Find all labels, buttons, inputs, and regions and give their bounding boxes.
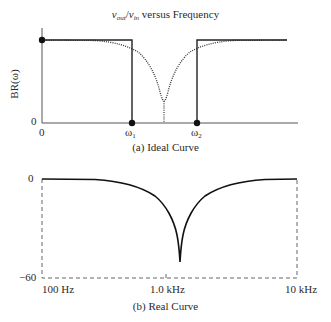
marker-start <box>39 37 45 43</box>
ideal-chart <box>39 28 298 126</box>
ideal-y-tick-0: 0 <box>31 115 37 127</box>
real-x-tick-10khz: 10 kHz <box>285 283 317 295</box>
ideal-caption: (a) Ideal Curve <box>0 141 331 153</box>
omega1-sub: 1 <box>132 132 136 140</box>
real-y-tick-neg60: −60 <box>19 271 36 283</box>
real-response-curve <box>42 179 297 262</box>
real-chart <box>42 179 297 278</box>
ideal-x-tick-omega1: ω1 <box>125 126 136 140</box>
real-dashed-frame <box>42 179 297 278</box>
ideal-x-tick-0: 0 <box>39 126 45 138</box>
omega2-sub: 2 <box>198 132 202 140</box>
real-x-tick-100hz: 100 Hz <box>42 283 74 295</box>
real-caption: (b) Real Curve <box>0 300 331 312</box>
ideal-y-label: BR(ω) <box>8 69 20 98</box>
figure-canvas <box>0 0 331 322</box>
real-x-tick-1khz: 1.0 kHz <box>150 283 185 295</box>
ideal-x-tick-omega2: ω2 <box>191 126 202 140</box>
real-y-tick-0: 0 <box>28 172 34 184</box>
ideal-dotted-curve <box>42 40 287 101</box>
